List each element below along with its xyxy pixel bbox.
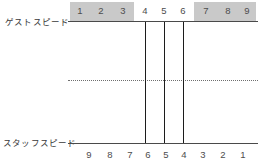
staff-tick-4: 4: [177, 150, 191, 160]
connector-guest6-staff4: [183, 22, 184, 143]
guest-tick-7: 7: [199, 6, 213, 16]
staff-tick-3: 3: [196, 150, 210, 160]
staff-axis-label: スタッフスピード: [3, 139, 77, 148]
staff-tick-6: 6: [141, 150, 155, 160]
guest-axis-label: ゲストスピード: [5, 18, 69, 27]
guest-tick-3: 3: [116, 6, 130, 16]
connector-guest4-staff6: [145, 22, 146, 143]
midline-dotted: [68, 80, 258, 81]
connector-guest5-staff5: [164, 22, 165, 143]
guest-tick-8: 8: [221, 6, 235, 16]
guest-tick-5: 5: [157, 6, 171, 16]
guest-tick-9: 9: [240, 6, 254, 16]
speed-comparison-diagram: ゲストスピード スタッフスピード 123456789 987654321: [0, 0, 265, 165]
staff-tick-7: 7: [123, 150, 137, 160]
staff-axis-rule: [68, 143, 258, 144]
guest-axis-rule: [68, 21, 258, 22]
guest-tick-4: 4: [138, 6, 152, 16]
guest-tick-1: 1: [73, 6, 87, 16]
staff-tick-9: 9: [82, 150, 96, 160]
staff-tick-1: 1: [236, 150, 250, 160]
staff-tick-5: 5: [159, 150, 173, 160]
staff-tick-8: 8: [103, 150, 117, 160]
guest-tick-6: 6: [176, 6, 190, 16]
guest-tick-2: 2: [94, 6, 108, 16]
staff-tick-2: 2: [216, 150, 230, 160]
